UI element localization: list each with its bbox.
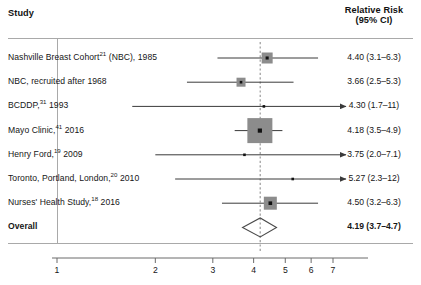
study-name: Nashville Breast Cohort — [8, 52, 99, 62]
study-name: NBC, recruited after 1968 — [8, 76, 107, 86]
point-estimate-marker — [263, 105, 266, 108]
study-label: Mayo Clinic,41 2016 — [8, 125, 84, 135]
study-label: Nashville Breast Cohort21 (NBC), 1985 — [8, 52, 157, 62]
study-label: Henry Ford,19 2009 — [8, 149, 83, 159]
x-tick-label: 1 — [47, 265, 67, 275]
relative-risk-value: 4.30 (1.7–11) — [330, 100, 418, 110]
relative-risk-value: 3.75 (2.0–7.1) — [330, 149, 418, 159]
study-year: 1993 — [47, 100, 69, 110]
study-label: Toronto, Portland, London,20 2010 — [8, 173, 139, 183]
study-name: Mayo Clinic, — [8, 125, 55, 135]
x-tick-label: 5 — [275, 265, 295, 275]
study-year: 2016 — [98, 197, 120, 207]
study-label: BCDDP,31 1993 — [8, 100, 68, 110]
study-label: Nurses' Health Study,18 2016 — [8, 197, 120, 207]
plot-rules — [8, 39, 413, 244]
x-tick-label: 3 — [203, 265, 223, 275]
relative-risk-value: 5.27 (2.3–12) — [330, 173, 418, 183]
study-label: Overall — [8, 221, 38, 231]
overall-diamond — [243, 218, 277, 237]
point-estimate-marker — [291, 178, 294, 181]
forest-plot — [0, 0, 421, 285]
x-tick-label: 2 — [145, 265, 165, 275]
point-estimate-marker — [258, 129, 262, 133]
study-name: Henry Ford, — [8, 149, 54, 159]
point-estimate-marker — [240, 81, 243, 84]
x-tick-label: 6 — [301, 265, 321, 275]
forest-row — [132, 105, 346, 108]
forest-row — [235, 118, 283, 143]
study-label: NBC, recruited after 1968 — [8, 76, 107, 86]
point-estimate-marker — [243, 154, 246, 157]
relative-risk-value: 4.18 (3.5–4.9) — [330, 125, 418, 135]
relative-risk-value: 4.50 (3.2–6.3) — [330, 197, 418, 207]
study-name: BCDDP, — [8, 100, 40, 110]
study-name: Nurses' Health Study, — [8, 197, 91, 207]
forest-rows — [132, 53, 346, 237]
study-year: 2009 — [61, 149, 83, 159]
forest-row — [217, 53, 318, 64]
study-year: (NBC), 1985 — [106, 52, 157, 62]
relative-risk-value: 3.66 (2.5–5.3) — [330, 76, 418, 86]
point-estimate-marker — [269, 201, 273, 205]
point-estimate-marker — [266, 56, 269, 59]
x-tick-label: 4 — [244, 265, 264, 275]
relative-risk-value: 4.19 (3.7–4.7) — [330, 221, 418, 231]
study-year: 2010 — [117, 173, 139, 183]
forest-row — [243, 218, 277, 237]
x-tick-label: 7 — [323, 265, 343, 275]
x-axis — [52, 258, 368, 263]
forest-row — [222, 197, 318, 210]
forest-row — [155, 154, 346, 157]
study-name: Toronto, Portland, London, — [8, 173, 111, 183]
forest-row — [187, 78, 294, 87]
study-name: Overall — [8, 221, 38, 231]
relative-risk-value: 4.40 (3.1–6.3) — [330, 52, 418, 62]
reference-superscript: 31 — [40, 99, 47, 106]
reference-superscript: 19 — [54, 147, 61, 154]
study-year: 2016 — [62, 125, 84, 135]
